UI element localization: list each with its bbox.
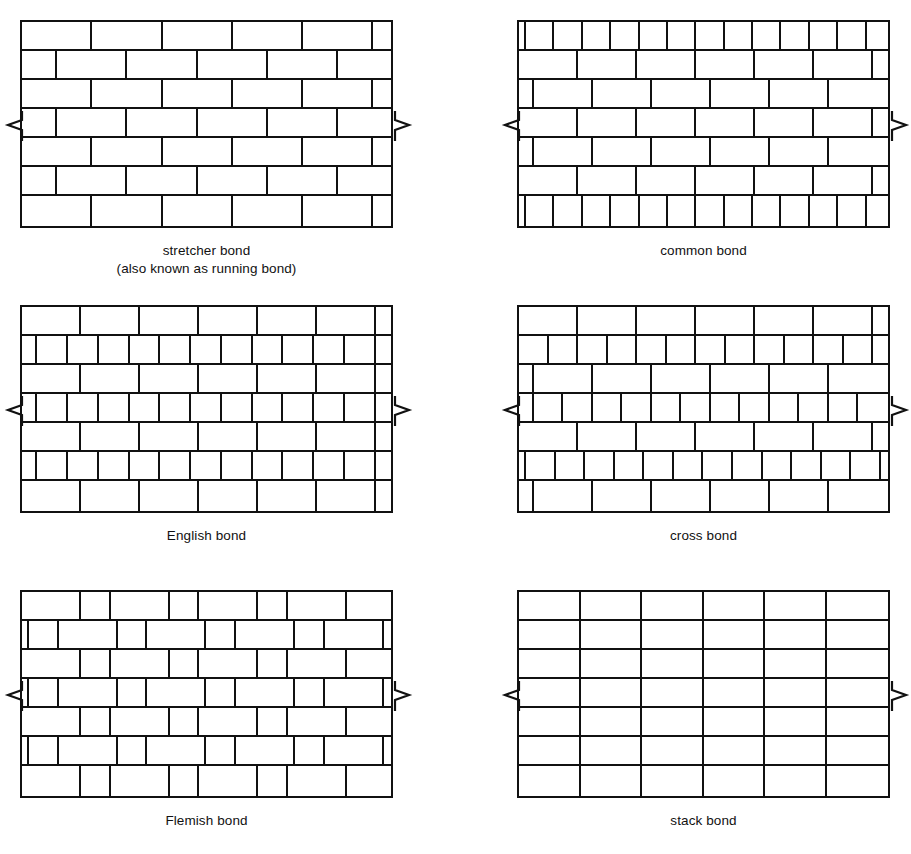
brick-course — [519, 307, 888, 336]
header-brick — [314, 336, 345, 363]
stretcher-brick — [140, 365, 199, 392]
stretcher-brick — [81, 307, 140, 334]
header-brick — [810, 22, 838, 49]
break-symbol-right — [886, 396, 911, 426]
stretcher-brick — [829, 80, 888, 107]
header-brick — [763, 452, 793, 479]
panel-caption: Flemish bond — [20, 812, 393, 830]
stretcher-brick — [22, 650, 81, 677]
stretcher-brick — [325, 621, 384, 648]
header-brick — [22, 167, 57, 194]
stretcher-brick — [827, 650, 889, 677]
stretcher-brick — [22, 80, 92, 107]
header-brick — [770, 394, 800, 421]
header-brick — [814, 336, 844, 363]
stretcher-brick — [317, 481, 376, 510]
caption-primary: English bond — [20, 527, 393, 545]
stretcher-brick — [325, 737, 384, 764]
stretcher-brick — [347, 708, 391, 735]
header-brick — [873, 423, 888, 450]
header-brick — [526, 22, 554, 49]
stretcher-brick — [765, 650, 827, 677]
brick-course — [519, 708, 888, 737]
stretcher-brick — [59, 737, 118, 764]
brick-course — [22, 452, 391, 481]
stretcher-brick — [696, 307, 755, 334]
header-brick — [373, 22, 391, 49]
stretcher-brick — [814, 109, 873, 136]
stretcher-brick — [711, 138, 770, 165]
header-brick — [37, 452, 68, 479]
header-brick — [68, 452, 99, 479]
stretcher-brick — [593, 80, 652, 107]
panel-common-bond: common bond — [517, 20, 890, 228]
wall-stack-bond — [517, 590, 890, 798]
stretcher-brick — [534, 138, 593, 165]
stretcher-brick — [829, 481, 888, 510]
stretcher-brick — [534, 481, 593, 510]
stretcher-brick — [755, 109, 814, 136]
header-brick — [667, 336, 697, 363]
stretcher-brick — [317, 365, 376, 392]
header-brick — [81, 650, 111, 677]
stretcher-brick — [642, 621, 704, 648]
stretcher-brick — [347, 592, 391, 619]
header-brick — [22, 336, 37, 363]
stretcher-brick — [22, 592, 81, 619]
brick-course — [519, 365, 888, 394]
header-brick — [130, 336, 161, 363]
stretcher-brick — [534, 80, 593, 107]
wall-stretcher-bond — [20, 20, 393, 228]
header-brick — [373, 80, 391, 107]
stretcher-brick — [696, 51, 755, 78]
stretcher-brick — [198, 167, 268, 194]
stretcher-brick — [233, 22, 303, 49]
header-brick — [829, 394, 859, 421]
stretcher-brick — [199, 766, 258, 795]
header-brick — [295, 679, 325, 706]
brick-course — [519, 737, 888, 766]
header-brick — [376, 423, 391, 450]
brick-course — [519, 766, 888, 795]
brick-course — [519, 196, 888, 225]
header-brick — [799, 394, 829, 421]
stretcher-brick — [147, 737, 206, 764]
brick-course — [22, 138, 391, 167]
header-brick — [130, 394, 161, 421]
stretcher-brick — [637, 167, 696, 194]
stretcher-brick — [814, 167, 873, 194]
brick-course — [519, 336, 888, 365]
header-brick — [858, 394, 888, 421]
header-brick — [22, 621, 29, 648]
stretcher-brick — [696, 109, 755, 136]
header-brick — [373, 138, 391, 165]
stretcher-brick — [22, 481, 81, 510]
stretcher-brick — [814, 307, 873, 334]
header-brick — [703, 452, 733, 479]
stretcher-brick — [268, 51, 338, 78]
stretcher-brick — [338, 109, 391, 136]
brick-course — [22, 650, 391, 679]
stretcher-brick — [198, 109, 268, 136]
break-symbol-right — [389, 111, 415, 141]
header-brick — [376, 336, 391, 363]
header-brick — [384, 679, 391, 706]
stretcher-brick — [111, 650, 170, 677]
stretcher-brick — [581, 621, 643, 648]
stretcher-brick — [827, 766, 889, 795]
stretcher-brick — [198, 51, 268, 78]
header-brick — [554, 196, 582, 225]
panel-stack-bond: stack bond — [517, 590, 890, 798]
stretcher-brick — [163, 22, 233, 49]
wall-english-bond — [20, 305, 393, 513]
stretcher-brick — [59, 679, 118, 706]
brick-course — [22, 109, 391, 138]
stretcher-brick — [199, 365, 258, 392]
header-brick — [851, 452, 881, 479]
header-brick — [170, 708, 200, 735]
stretcher-brick — [642, 650, 704, 677]
stretcher-brick — [581, 592, 643, 619]
stretcher-brick — [704, 766, 766, 795]
stretcher-brick — [338, 167, 391, 194]
header-brick — [118, 679, 148, 706]
